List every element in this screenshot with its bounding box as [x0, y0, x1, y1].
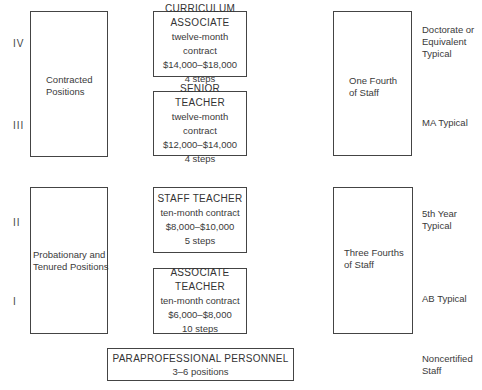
position-box-senior-teacher: SENIOR TEACHER twelve-month contract $12…	[153, 91, 247, 156]
paraprofessional-title: PARAPROFESSIONAL PERSONNEL	[112, 352, 288, 365]
one-fourth-staff-box: One Fourth of Staff	[333, 11, 412, 156]
position-steps: 5 steps	[185, 234, 216, 248]
rank-iii-label: III	[13, 120, 24, 131]
position-salary: $6,000–$8,000	[168, 308, 231, 322]
rank-iv-label: IV	[13, 38, 24, 49]
rank-ii-label: II	[13, 217, 21, 228]
paraprofessional-box: PARAPROFESSIONAL PERSONNEL 3–6 positions	[107, 348, 294, 381]
position-salary: $8,000–$10,000	[166, 220, 235, 234]
contracted-positions-box: Contracted Positions	[30, 11, 108, 157]
position-contract: ten-month contract	[160, 294, 239, 308]
three-fourths-staff-label: Three Fourths of Staff	[344, 247, 404, 271]
position-title: CURRICULUM ASSOCIATE	[154, 2, 246, 30]
position-box-curriculum-associate: CURRICULUM ASSOCIATE twelve-month contra…	[153, 11, 247, 77]
position-salary: $12,000–$14,000	[163, 138, 237, 152]
rank-i-label: I	[13, 296, 17, 307]
qualification-i: AB Typical	[422, 293, 467, 305]
three-fourths-staff-box: Three Fourths of Staff	[333, 187, 413, 334]
position-contract: twelve-month contract	[154, 30, 246, 58]
contracted-positions-label: Contracted Positions	[46, 74, 92, 98]
position-box-staff-teacher: STAFF TEACHER ten-month contract $8,000–…	[153, 187, 247, 253]
qualification-iii: MA Typical	[422, 117, 468, 129]
position-box-associate-teacher: ASSOCIATE TEACHER ten-month contract $6,…	[153, 268, 247, 334]
qualification-iv: Doctorate or Equivalent Typical	[422, 24, 474, 60]
paraprofessional-count: 3–6 positions	[173, 365, 229, 378]
position-salary: $14,000–$18,000	[163, 58, 237, 72]
position-contract: ten-month contract	[160, 206, 239, 220]
one-fourth-staff-label: One Fourth of Staff	[349, 75, 397, 99]
qualification-noncertified: Noncertified Staff	[422, 353, 473, 377]
position-steps: 4 steps	[185, 152, 216, 166]
position-steps: 10 steps	[182, 322, 218, 336]
position-title: SENIOR TEACHER	[154, 82, 246, 110]
probationary-tenured-label: Probationary and Tenured Positions	[33, 249, 109, 273]
position-contract: twelve-month contract	[154, 110, 246, 138]
position-title: STAFF TEACHER	[157, 192, 242, 206]
qualification-ii: 5th Year Typical	[422, 208, 457, 232]
probationary-tenured-box: Probationary and Tenured Positions	[30, 187, 108, 334]
position-title: ASSOCIATE TEACHER	[154, 266, 246, 294]
